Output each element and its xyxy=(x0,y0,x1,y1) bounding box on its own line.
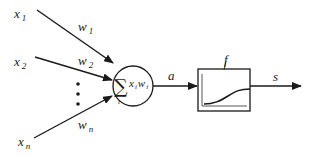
input-xn: xn wn xyxy=(17,96,112,151)
input-x1-arrow xyxy=(37,10,113,63)
input-x1: x1 w1 xyxy=(13,6,113,63)
activation-input-label: a xyxy=(168,68,175,83)
weight-wn-label: wn xyxy=(78,117,94,134)
weight-w2-label: w2 xyxy=(78,53,94,70)
neuron-diagram: x1 w1 x2 w2 xn wn ∑ i xiwi a f s xyxy=(0,0,319,156)
weight-w1-label: w1 xyxy=(78,19,93,36)
input-xn-label: xn xyxy=(17,134,31,151)
sum-index: i xyxy=(118,98,120,106)
activation-function-box: f xyxy=(198,52,250,111)
sigma-icon: ∑ xyxy=(114,75,128,97)
input-x2: x2 w2 xyxy=(13,53,112,80)
sum-term: xiwi xyxy=(128,77,148,91)
ellipsis-dots xyxy=(76,82,80,106)
input-x2-label: x2 xyxy=(13,54,27,71)
output-label: s xyxy=(273,69,278,84)
input-x1-label: x1 xyxy=(13,6,26,23)
activation-function-label: f xyxy=(224,52,230,67)
input-xn-arrow xyxy=(34,96,112,138)
input-x2-arrow xyxy=(35,57,112,80)
summation-node: ∑ i xiwi xyxy=(113,66,153,106)
